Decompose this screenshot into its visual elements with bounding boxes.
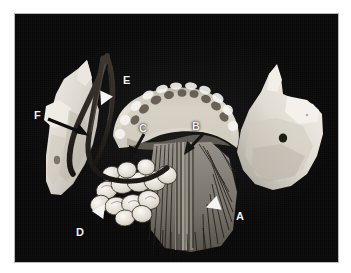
label-c: C [139, 123, 147, 134]
label-e: E [123, 75, 131, 86]
label-d: D [76, 227, 84, 238]
label-f: F [34, 110, 41, 121]
label-b: B [192, 121, 200, 132]
muscle-fibers [147, 142, 237, 257]
mandibular-dental-arch [113, 82, 239, 150]
mandibular-foramen [279, 133, 287, 142]
label-a: A [236, 211, 244, 222]
figure-page: A B C D E F [0, 0, 351, 273]
specimen-illustration [15, 14, 338, 262]
right-mandibular-ramus [237, 64, 323, 190]
specimen-area: A B C D E F [15, 14, 338, 262]
anatomical-photograph: A B C D E F [15, 14, 338, 262]
